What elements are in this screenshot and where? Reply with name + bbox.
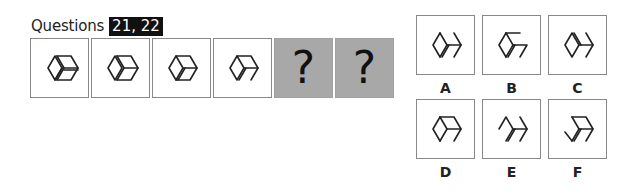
option-b-figure[interactable] xyxy=(482,15,541,75)
option-d[interactable]: D xyxy=(416,99,475,183)
option-a-figure[interactable] xyxy=(416,15,475,75)
option-label: E xyxy=(507,161,517,183)
cube-fragment-icon xyxy=(553,104,603,154)
option-e-figure[interactable] xyxy=(482,99,541,159)
cube-figure-icon xyxy=(157,43,207,93)
option-a[interactable]: A xyxy=(416,15,475,99)
option-f-figure[interactable] xyxy=(548,99,607,159)
option-label: B xyxy=(506,77,517,99)
question-header: Questions 21, 22 xyxy=(31,16,163,36)
question-mark: ? xyxy=(353,46,376,90)
option-c[interactable]: C xyxy=(548,15,607,99)
sequence-figure-3 xyxy=(152,38,211,98)
cube-fragment-icon xyxy=(487,104,537,154)
questions-label: Questions xyxy=(31,17,104,35)
sequence-figure-4 xyxy=(213,38,272,98)
option-label: F xyxy=(573,161,583,183)
option-c-figure[interactable] xyxy=(548,15,607,75)
cube-fragment-icon xyxy=(421,104,471,154)
cube-fragment-icon xyxy=(421,20,471,70)
option-f[interactable]: F xyxy=(548,99,607,183)
option-label: A xyxy=(440,77,451,99)
cube-figure-icon xyxy=(96,43,146,93)
sequence-figure-1 xyxy=(30,38,89,98)
cube-fragment-icon xyxy=(553,20,603,70)
sequence-figure-2 xyxy=(91,38,150,98)
option-d-figure[interactable] xyxy=(416,99,475,159)
sequence-row: ? ? xyxy=(30,38,394,98)
question-mark: ? xyxy=(292,46,315,90)
answer-options: A B C xyxy=(416,15,607,183)
unknown-figure-6: ? xyxy=(335,38,394,98)
option-b[interactable]: B xyxy=(482,15,541,99)
option-label: D xyxy=(440,161,452,183)
option-e[interactable]: E xyxy=(482,99,541,183)
cube-figure-icon xyxy=(218,43,268,93)
question-numbers-badge: 21, 22 xyxy=(109,17,163,36)
option-label: C xyxy=(572,77,582,99)
cube-figure-icon xyxy=(35,43,85,93)
unknown-figure-5: ? xyxy=(274,38,333,98)
cube-fragment-icon xyxy=(487,20,537,70)
